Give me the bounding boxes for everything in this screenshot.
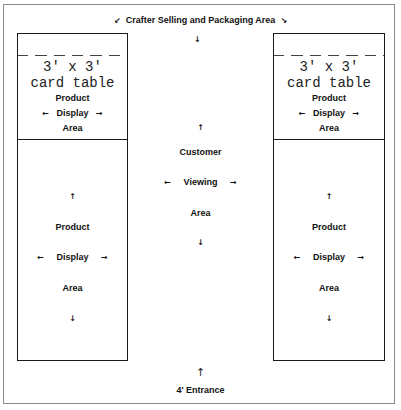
table-edge-dashed-line — [274, 55, 384, 56]
arrow-up-icon: ↑ — [18, 192, 127, 201]
display-row: ← Display → — [274, 108, 384, 118]
arrow-right-icon: → — [96, 109, 103, 118]
arrow-up-icon: ↑ — [0, 123, 401, 132]
right-display-table: 3' x 3' card table Product ← Display → A… — [273, 33, 385, 361]
arrow-right-icon: → — [353, 109, 360, 118]
arrow-right-icon: → — [101, 253, 108, 262]
display-label: Display — [56, 108, 88, 118]
left-display-table: 3' x 3' card table Product ← Display → A… — [17, 33, 128, 361]
table-size: 3' x 3' — [18, 59, 127, 75]
display-row: ← Display → — [274, 252, 384, 262]
customer-label: Customer — [0, 147, 401, 157]
product-label: Product — [274, 93, 384, 103]
arrow-right-icon: → — [230, 178, 237, 187]
arrow-left-icon: ← — [37, 253, 44, 262]
display-label: Display — [56, 252, 88, 262]
table-name: card table — [18, 75, 127, 91]
table-divider — [274, 139, 384, 140]
table-name: card table — [274, 75, 384, 91]
product-label: Product — [274, 222, 384, 232]
display-label: Display — [313, 252, 345, 262]
viewing-label: Viewing — [184, 177, 218, 187]
arrow-down-icon: ↓ — [18, 314, 127, 323]
arrow-down-right-icon: ↘ — [280, 16, 287, 25]
arrow-down-icon: ↓ — [0, 238, 401, 247]
display-row: ← Display → — [18, 108, 127, 118]
table-divider — [18, 139, 127, 140]
area-label: Area — [274, 283, 384, 293]
table-edge-dashed-line — [18, 55, 127, 56]
area-label: Area — [0, 208, 401, 218]
area-label: Area — [18, 283, 127, 293]
arrow-left-icon: ← — [164, 178, 171, 187]
arrow-down-icon: ↓ — [274, 314, 384, 323]
arrow-up-icon: ↑ — [274, 192, 384, 201]
display-row: ← Display → — [18, 252, 127, 262]
viewing-row: ← Viewing → — [0, 177, 401, 187]
arrow-right-icon: → — [358, 253, 365, 262]
table-size: 3' x 3' — [274, 59, 384, 75]
entrance-arrow-icon: ↑ — [0, 366, 401, 379]
arrow-down-left-icon: ↙ — [114, 16, 121, 25]
crafter-area-title: ↙ Crafter Selling and Packaging Area ↘ — [0, 15, 401, 25]
arrow-left-icon: ← — [294, 253, 301, 262]
entrance-label: 4' Entrance — [0, 385, 401, 395]
display-label: Display — [313, 108, 345, 118]
arrow-left-icon: ← — [42, 109, 49, 118]
arrow-down-icon: ↓ — [194, 35, 201, 44]
arrow-left-icon: ← — [299, 109, 306, 118]
title-text: Crafter Selling and Packaging Area — [126, 15, 276, 25]
product-label: Product — [18, 93, 127, 103]
product-label: Product — [18, 222, 127, 232]
